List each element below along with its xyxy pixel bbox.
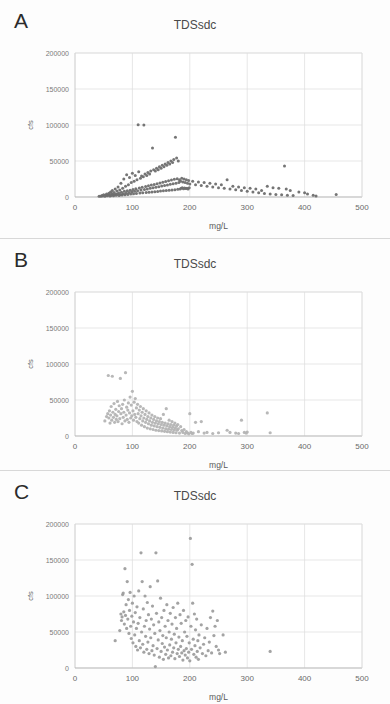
- y-tick-label: 100000: [46, 361, 69, 368]
- y-tick-label: 50000: [50, 158, 70, 165]
- y-tick-label: 50000: [50, 397, 70, 404]
- y-tick-label: 0: [65, 194, 69, 201]
- x-tick-label: 200: [183, 674, 197, 683]
- y-axis-label: cfs: [26, 359, 35, 369]
- x-axis-label: mg/L: [209, 460, 228, 470]
- x-tick-label: 100: [126, 203, 140, 212]
- x-axis-label: mg/L: [209, 692, 228, 702]
- scatter-plot-c: 0500001000001500002000000100200300400500…: [0, 471, 390, 704]
- y-tick-label: 0: [65, 433, 69, 440]
- scatter-plot-b: 0500001000001500002000000100200300400500…: [0, 239, 390, 471]
- y-axis-label: cfs: [26, 120, 35, 130]
- y-tick-label: 0: [65, 665, 69, 672]
- y-tick-label: 100000: [46, 593, 69, 600]
- scatter-plot-a: 0500001000001500002000000100200300400500…: [0, 0, 390, 238]
- y-tick-label: 150000: [46, 325, 69, 332]
- y-tick-label: 100000: [46, 122, 69, 129]
- y-tick-label: 50000: [50, 629, 70, 636]
- y-axis-label: cfs: [26, 591, 35, 601]
- x-tick-label: 100: [126, 442, 140, 451]
- x-tick-label: 300: [241, 203, 255, 212]
- x-tick-label: 500: [355, 442, 369, 451]
- panel-b: B TDSsdc 0500001000001500002000000100200…: [0, 238, 390, 470]
- x-axis-label: mg/L: [209, 221, 228, 231]
- y-tick-label: 200000: [46, 289, 69, 296]
- x-tick-label: 400: [298, 674, 312, 683]
- panel-c: C TDSsdc 0500001000001500002000000100200…: [0, 470, 390, 704]
- y-tick-label: 200000: [46, 50, 69, 57]
- x-tick-label: 300: [241, 674, 255, 683]
- x-tick-label: 400: [298, 203, 312, 212]
- y-tick-label: 150000: [46, 86, 69, 93]
- x-tick-label: 500: [355, 674, 369, 683]
- x-tick-label: 0: [73, 674, 78, 683]
- x-tick-label: 200: [183, 203, 197, 212]
- x-tick-label: 200: [183, 442, 197, 451]
- x-tick-label: 300: [241, 442, 255, 451]
- x-tick-label: 0: [73, 203, 78, 212]
- x-tick-label: 100: [126, 674, 140, 683]
- y-tick-label: 150000: [46, 557, 69, 564]
- x-tick-label: 400: [298, 442, 312, 451]
- figure-container: A TDSsdc 0500001000001500002000000100200…: [0, 0, 390, 704]
- x-tick-label: 500: [355, 203, 369, 212]
- y-tick-label: 200000: [46, 521, 69, 528]
- x-tick-label: 0: [73, 442, 78, 451]
- plot-area-c: 0500001000001500002000000100200300400500…: [0, 471, 390, 704]
- panel-a: A TDSsdc 0500001000001500002000000100200…: [0, 0, 390, 238]
- plot-area-b: 0500001000001500002000000100200300400500…: [0, 239, 390, 470]
- plot-area-a: 0500001000001500002000000100200300400500…: [0, 0, 390, 238]
